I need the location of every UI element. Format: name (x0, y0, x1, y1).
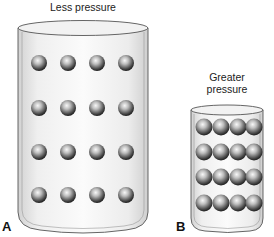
label-greater-line2: pressure (190, 83, 264, 95)
label-greater-line1: Greater (190, 71, 264, 83)
label-greater-pressure: Greater pressure (190, 71, 264, 95)
diagram-canvas (0, 0, 274, 237)
panel-letter-b: B (176, 219, 185, 234)
panel-letter-a: A (2, 219, 11, 234)
label-less-pressure: Less pressure (30, 1, 136, 13)
